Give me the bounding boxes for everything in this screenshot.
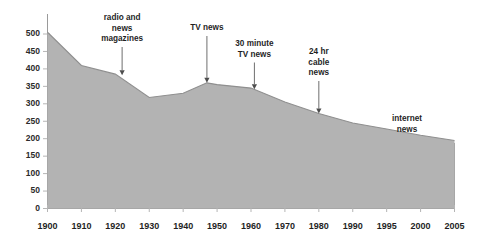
annotation-label: TV news <box>238 50 272 59</box>
x-tick-label: 2005 <box>444 221 464 231</box>
chart-canvas: 050100150200250300350400450500 190019101… <box>0 0 496 241</box>
x-tick-label: 1940 <box>173 221 193 231</box>
annotation-label: radio and <box>104 13 141 22</box>
annotation-label: news <box>397 125 418 134</box>
annotation-label: internet <box>392 114 422 123</box>
y-tick-label: 0 <box>35 203 40 213</box>
x-tick-label: 1930 <box>139 221 159 231</box>
x-tick-label: 2000 <box>411 221 431 231</box>
area-chart: 050100150200250300350400450500 190019101… <box>0 0 496 241</box>
x-tick-label: 1920 <box>105 221 125 231</box>
annotation-label: 30 minute <box>235 39 274 48</box>
x-tick-label: 1980 <box>309 221 329 231</box>
x-tick-label: 1995 <box>377 221 397 231</box>
annotation: internetnews <box>392 114 422 134</box>
y-tick-label: 250 <box>26 116 40 126</box>
y-axis-tick-labels: 050100150200250300350400450500 <box>26 28 40 213</box>
x-tick-label: 1950 <box>207 221 227 231</box>
annotation: radio andnewsmagazines <box>101 13 143 75</box>
annotation-label: magazines <box>101 34 143 43</box>
y-tick-label: 100 <box>26 168 40 178</box>
y-tick-label: 400 <box>26 63 40 73</box>
y-tick-label: 350 <box>26 81 40 91</box>
annotation: TV news <box>190 23 224 83</box>
annotation-arrow-head <box>204 78 209 83</box>
x-tick-label: 1970 <box>275 221 295 231</box>
y-tick-label: 50 <box>31 185 41 195</box>
annotation-label: TV news <box>190 23 224 32</box>
x-tick-label: 1990 <box>343 221 363 231</box>
y-tick-label: 150 <box>26 150 40 160</box>
x-tick-label: 1900 <box>37 221 57 231</box>
x-tick-label: 1910 <box>71 221 91 231</box>
annotation: 24 hrcablenews <box>308 47 329 114</box>
annotation-label: news <box>112 24 133 33</box>
annotation: 30 minuteTV news <box>235 39 274 89</box>
annotation-arrow-head <box>120 70 125 75</box>
y-tick-label: 200 <box>26 133 40 143</box>
y-tick-label: 450 <box>26 46 40 56</box>
annotation-label: 24 hr <box>309 47 329 56</box>
y-tick-label: 300 <box>26 98 40 108</box>
annotation-label: news <box>309 68 330 77</box>
annotation-label: cable <box>308 58 329 67</box>
x-tick-label: 1960 <box>241 221 261 231</box>
y-tick-label: 500 <box>26 28 40 38</box>
x-axis-tick-labels: 1900191019201930194019501960197019801990… <box>37 221 464 231</box>
